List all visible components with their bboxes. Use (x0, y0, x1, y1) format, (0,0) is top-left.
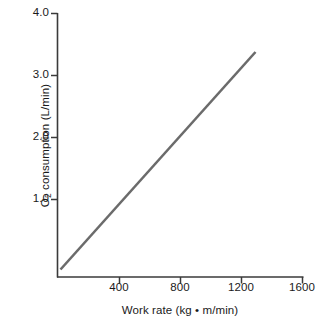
y-axis-title: O2 consumption (L/min) (38, 16, 53, 276)
x-tick-label-1200: 1200 (211, 281, 271, 294)
x-tick-label-wrap-400: 400 (89, 281, 149, 295)
y-axis-title-rest: consumption (L/min) (39, 84, 51, 193)
x-tick-label-wrap-1600: 1600 (272, 281, 316, 295)
x-tick-label-1600: 1600 (272, 281, 316, 294)
x-tick-label-400: 400 (89, 281, 149, 294)
y-axis-title-subscript: 2 (43, 193, 53, 198)
y-axis-title-base: O (39, 198, 51, 207)
x-axis-title: Work rate (kg • m/min) (57, 303, 303, 317)
chart-figure: 4.0 3.0 2.0 1.0 400 800 1200 1600 Work r… (0, 0, 316, 330)
x-tick-label-800: 800 (150, 281, 210, 294)
data-line-series-1 (61, 52, 256, 270)
x-tick-label-wrap-1200: 1200 (211, 281, 271, 295)
x-tick-label-wrap-800: 800 (150, 281, 210, 295)
